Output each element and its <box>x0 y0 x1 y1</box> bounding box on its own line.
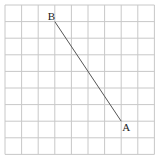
point-label-b: B <box>48 10 55 22</box>
grid-lines <box>5 5 154 154</box>
point-label-a: A <box>122 121 130 133</box>
grid-diagram: B A <box>0 0 159 162</box>
